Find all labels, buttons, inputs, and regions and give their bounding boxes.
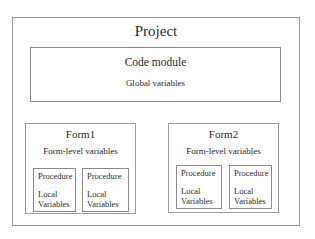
procedure-title: Procedure: [87, 172, 121, 181]
procedure-title: Procedure: [234, 169, 268, 178]
form2-procedure-2-box: Procedure Local Variables: [229, 165, 272, 209]
code-module-title: Code module: [31, 57, 280, 69]
project-title: Project: [13, 24, 299, 39]
form1-procedure-1-box: Procedure Local Variables: [33, 168, 76, 212]
form2-level-variables-label: Form-level variables: [169, 147, 278, 156]
local-variables-label-line2: Variables: [234, 197, 266, 206]
code-module-box: Code module Global variables: [30, 47, 281, 102]
local-variables-label-line1: Local: [234, 187, 253, 196]
form1-level-variables-label: Form-level variables: [26, 147, 135, 156]
form2-procedure-1-box: Procedure Local Variables: [176, 165, 222, 209]
local-variables-label-line1: Local: [181, 187, 200, 196]
form2-box: Form2 Form-level variables Procedure Loc…: [168, 123, 279, 213]
form1-procedure-2-box: Procedure Local Variables: [82, 168, 129, 212]
local-variables-label-line2: Variables: [38, 200, 70, 209]
local-variables-label-line2: Variables: [87, 200, 119, 209]
local-variables-label-line2: Variables: [181, 197, 213, 206]
procedure-title: Procedure: [38, 172, 72, 181]
form1-title: Form1: [26, 129, 135, 140]
local-variables-label-line1: Local: [38, 190, 57, 199]
form1-box: Form1 Form-level variables Procedure Loc…: [25, 123, 136, 214]
local-variables-label-line1: Local: [87, 190, 106, 199]
project-box: Project Code module Global variables For…: [12, 17, 300, 226]
form2-title: Form2: [169, 129, 278, 140]
procedure-title: Procedure: [181, 169, 215, 178]
global-variables-label: Global variables: [31, 79, 280, 88]
